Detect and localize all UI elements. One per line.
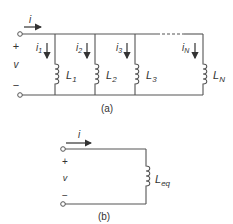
minus-label-b: − bbox=[62, 190, 68, 201]
circuit-b: i + v − Leq (b) bbox=[61, 129, 171, 222]
branch-LN bbox=[195, 34, 207, 95]
voltage-label-a: v bbox=[14, 59, 20, 70]
current-label-b: i bbox=[78, 129, 81, 140]
plus-label-a: + bbox=[13, 40, 19, 52]
branch-current-label: i2 bbox=[76, 42, 82, 54]
inductor-icon bbox=[95, 34, 99, 95]
branch-L2 bbox=[87, 34, 99, 95]
branch-L1 bbox=[47, 34, 59, 95]
circuit-a: i + v − i1 i2 i3 iN L1 L2 L3 LN (a) bbox=[13, 14, 225, 114]
circuit-diagram: i + v − i1 i2 i3 iN L1 L2 L3 LN (a) i + … bbox=[0, 0, 233, 224]
branch-current-label: i3 bbox=[116, 42, 122, 54]
terminal-bottom-a bbox=[18, 93, 23, 98]
inductor-label: L3 bbox=[146, 69, 157, 84]
caption-b: (b) bbox=[98, 211, 110, 222]
branch-L3 bbox=[127, 34, 139, 95]
plus-label-b: + bbox=[62, 156, 68, 167]
caption-a: (a) bbox=[101, 103, 113, 114]
minus-label-a: − bbox=[13, 79, 19, 91]
inductor-label: Leq bbox=[155, 173, 171, 188]
inductor-label: L1 bbox=[66, 69, 77, 84]
terminal-top-a bbox=[18, 32, 23, 37]
voltage-label-b: v bbox=[63, 173, 68, 183]
inductor-label: L2 bbox=[106, 69, 117, 84]
current-label-a: i bbox=[29, 14, 32, 25]
branch-current-label: i1 bbox=[36, 42, 42, 54]
inductor-icon bbox=[146, 149, 150, 204]
inductor-icon bbox=[55, 34, 59, 95]
inductor-label: LN bbox=[213, 69, 225, 84]
inductor-icon bbox=[203, 34, 207, 95]
terminal-bottom-b bbox=[61, 202, 66, 207]
branch-current-label: iN bbox=[182, 42, 190, 54]
terminal-top-b bbox=[61, 147, 66, 152]
inductor-icon bbox=[135, 34, 139, 95]
